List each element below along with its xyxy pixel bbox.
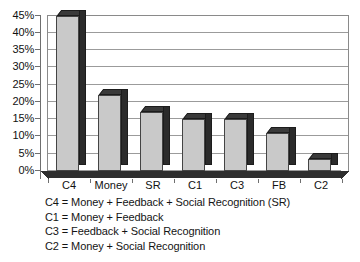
x-axis-tick	[90, 179, 91, 183]
x-axis-labels: C4 Money SR C1 C3 FB C2	[0, 178, 360, 196]
bar-front-face	[224, 119, 247, 171]
bar-c2[interactable]	[308, 159, 331, 171]
legend-line-c2: C2 = Money + Social Recognition	[45, 239, 345, 254]
bar-front-face	[182, 119, 205, 171]
bar-side-face	[247, 113, 254, 165]
bar-front-face	[140, 112, 163, 171]
legend-line-c4: C4 = Money + Feedback + Social Recogniti…	[45, 195, 345, 210]
legend-line-c3: C3 = Feedback + Social Recognition	[45, 224, 345, 239]
x-axis-tick	[258, 179, 259, 183]
bar-front-face	[56, 16, 79, 171]
bar-chart-figure: 45% 40% 35% 30% 25% 20% 15% 10% 5% 0%	[0, 0, 360, 262]
bar-side-face	[331, 153, 338, 165]
bar-side-face	[121, 89, 128, 165]
x-axis-tick	[48, 179, 49, 183]
x-axis-tick	[132, 179, 133, 183]
bar-c4[interactable]	[56, 16, 79, 171]
y-axis-line	[40, 15, 41, 179]
bar-money[interactable]	[98, 95, 121, 171]
x-axis-tick	[174, 179, 175, 183]
bar-front-face	[98, 95, 121, 171]
bar-sr[interactable]	[140, 112, 163, 171]
bar-side-face	[289, 127, 296, 165]
x-axis-tick	[300, 179, 301, 183]
plot-wrapper: 45% 40% 35% 30% 25% 20% 15% 10% 5% 0%	[0, 0, 360, 196]
bar-c3[interactable]	[224, 119, 247, 171]
x-axis-tick	[216, 179, 217, 183]
bar-front-face	[266, 133, 289, 171]
bar-fb[interactable]	[266, 133, 289, 171]
legend-notes: C4 = Money + Feedback + Social Recogniti…	[45, 195, 345, 253]
bar-front-face	[308, 159, 331, 171]
legend-line-c1: C1 = Money + Feedback	[45, 210, 345, 225]
x-axis-tick	[342, 179, 343, 183]
bars-layer	[0, 0, 360, 196]
bar-side-face	[205, 113, 212, 165]
bar-side-face	[79, 10, 86, 165]
bar-c1[interactable]	[182, 119, 205, 171]
bar-side-face	[163, 106, 170, 165]
